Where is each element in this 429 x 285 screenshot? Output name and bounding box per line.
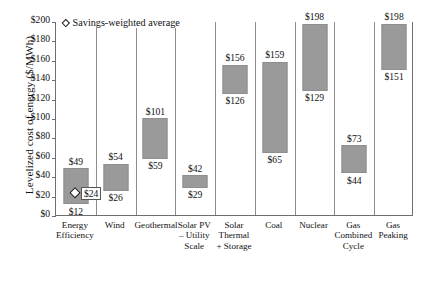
range-bar-solar-thermal-storage	[222, 65, 247, 94]
y-tick-label: $40	[36, 169, 50, 180]
category-column-nuclear: $198$129	[295, 22, 335, 215]
range-bar-nuclear	[302, 24, 327, 91]
x-tick-label-solar-pv-utility-scale: Solar PV– UtilityScale	[174, 220, 214, 251]
range-bar-gas-combined-cycle	[342, 145, 367, 173]
range-bar-geothermal	[143, 118, 168, 159]
category-column-gas-peaking: $198$151	[374, 22, 414, 215]
x-tick-label-gas-peaking: GasPeaking	[373, 220, 413, 241]
range-bar-coal	[262, 62, 287, 153]
high-value-label-gas-combined-cycle: $73	[347, 133, 361, 144]
y-tick-label: $120	[31, 92, 50, 103]
y-tick-label: $140	[31, 72, 50, 83]
lcoe-range-chart: Levelized cost of energy ($/MWh) Savings…	[0, 0, 429, 285]
low-value-label-coal: $65	[268, 154, 282, 165]
x-tick-label-solar-thermal-storage: SolarThermal+ Storage	[214, 220, 254, 251]
high-value-label-wind: $54	[108, 151, 122, 162]
category-column-wind: $54$26	[96, 22, 136, 215]
high-value-label-gas-peaking: $198	[385, 11, 404, 22]
high-value-label-nuclear: $198	[305, 11, 324, 22]
savings-weighted-average-value-label: $24	[81, 187, 101, 200]
x-tick-label-coal: Coal	[254, 220, 294, 230]
y-tick-label: $180	[31, 33, 50, 44]
high-value-label-solar-pv-utility-scale: $42	[188, 163, 202, 174]
category-column-gas-combined-cycle: $73$44	[334, 22, 374, 215]
x-tick-label-nuclear: Nuclear	[294, 220, 334, 230]
low-value-label-nuclear: $129	[305, 92, 324, 103]
hollow-diamond-icon	[62, 19, 70, 27]
x-tick-label-energy-efficiency: EnergyEfficiency	[55, 220, 95, 241]
legend-label-savings-weighted-average: Savings-weighted average	[73, 17, 180, 28]
low-value-label-solar-thermal-storage: $126	[225, 95, 244, 106]
y-tick-label: $160	[31, 53, 50, 64]
category-column-geothermal: $101$59	[136, 22, 176, 215]
high-value-label-energy-efficiency: $49	[69, 156, 83, 167]
y-tick-label: $80	[36, 130, 50, 141]
low-value-label-gas-peaking: $151	[385, 71, 404, 82]
low-value-label-geothermal: $59	[148, 160, 162, 171]
x-tick-label-wind: Wind	[95, 220, 135, 230]
category-column-coal: $159$65	[255, 22, 295, 215]
high-value-label-geothermal: $101	[146, 106, 165, 117]
range-bar-gas-peaking	[382, 24, 407, 70]
y-tick-label: $100	[31, 111, 50, 122]
low-value-label-energy-efficiency: $12	[69, 206, 83, 217]
y-tick-label: $20	[36, 189, 50, 200]
y-tick-label: $0	[40, 208, 50, 219]
x-tick-label-geothermal: Geothermal	[135, 220, 175, 230]
high-value-label-solar-thermal-storage: $156	[225, 52, 244, 63]
chart-legend: Savings-weighted average	[61, 17, 182, 28]
low-value-label-gas-combined-cycle: $44	[347, 175, 361, 186]
y-tick-label: $60	[36, 150, 50, 161]
plot-area: $200$180$160$140$120$100$80$60$40$20$0$4…	[55, 22, 413, 216]
range-bar-wind	[103, 164, 128, 191]
category-column-solar-thermal-storage: $156$126	[215, 22, 255, 215]
range-bar-solar-pv-utility-scale	[183, 175, 208, 188]
category-column-solar-pv-utility-scale: $42$29	[175, 22, 215, 215]
high-value-label-coal: $159	[265, 49, 284, 60]
x-tick-label-gas-combined-cycle: GasCombinedCycle	[333, 220, 373, 251]
low-value-label-wind: $26	[108, 192, 122, 203]
y-tick-mark	[52, 216, 56, 217]
low-value-label-solar-pv-utility-scale: $29	[188, 189, 202, 200]
y-tick-label: $200	[31, 14, 50, 25]
